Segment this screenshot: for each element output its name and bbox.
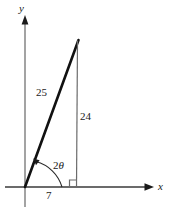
triangle-figure: y x 25 24 7 2θ — [0, 0, 173, 215]
angle-label: 2θ — [53, 160, 64, 171]
x-axis-arrow-icon — [145, 183, 155, 190]
figure-canvas — [0, 0, 173, 215]
triangle-vertical-leg — [77, 41, 78, 188]
x-axis-label: x — [158, 181, 163, 192]
triangle-hypotenuse — [25, 40, 79, 187]
right-angle-marker-icon — [70, 180, 77, 187]
theta-symbol: θ — [59, 159, 64, 171]
adjacent-side-length-label: 7 — [46, 190, 52, 201]
y-axis-label: y — [19, 3, 24, 14]
opposite-side-length-label: 24 — [80, 111, 91, 122]
y-axis-arrow-icon — [22, 15, 29, 25]
hypotenuse-length-label: 25 — [36, 87, 47, 98]
